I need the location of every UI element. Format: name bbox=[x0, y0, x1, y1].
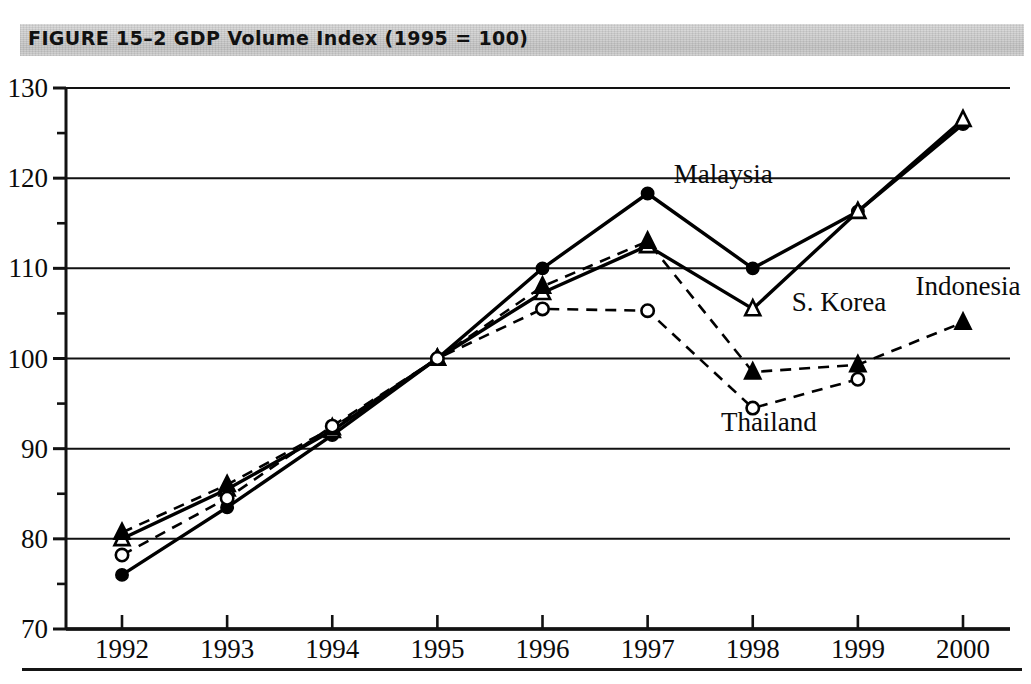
y-tick-label-90: 90 bbox=[21, 434, 48, 464]
x-tick-label-1995: 1995 bbox=[410, 634, 464, 664]
x-tick-label-1993: 1993 bbox=[200, 634, 254, 664]
marker-thailand-5 bbox=[641, 305, 653, 317]
marker-thailand-1 bbox=[221, 492, 233, 504]
marker-malaysia-6 bbox=[747, 262, 759, 274]
figure-title: FIGURE 15–2 GDP Volume Index (1995 = 100… bbox=[28, 27, 528, 49]
marker-thailand-3 bbox=[431, 352, 443, 364]
x-tick-label-2000: 2000 bbox=[936, 634, 990, 664]
chart-svg: 708090100110120130 199219931994199519961… bbox=[0, 0, 1031, 684]
marker-malaysia-0 bbox=[116, 569, 128, 581]
marker-thailand-0 bbox=[116, 549, 128, 561]
series-label-s-korea: S. Korea bbox=[792, 287, 886, 317]
marker-indonesia-1 bbox=[220, 476, 235, 491]
x-tick-label-1998: 1998 bbox=[726, 634, 780, 664]
x-axis: 199219931994199519961997199819992000 bbox=[66, 615, 1010, 664]
y-tick-label-120: 120 bbox=[8, 163, 49, 193]
marker-indonesia-4 bbox=[535, 278, 550, 293]
marker-thailand-7 bbox=[852, 373, 864, 385]
marker-indonesia-8 bbox=[956, 314, 971, 329]
marker-s-korea-8 bbox=[956, 111, 971, 126]
y-tick-label-130: 130 bbox=[8, 73, 49, 103]
x-tick-label-1997: 1997 bbox=[621, 634, 675, 664]
marker-thailand-2 bbox=[326, 420, 338, 432]
series-line-s-korea bbox=[122, 120, 963, 539]
y-tick-label-100: 100 bbox=[8, 344, 49, 374]
marker-indonesia-5 bbox=[640, 233, 655, 248]
y-tick-label-80: 80 bbox=[21, 524, 48, 554]
y-axis: 708090100110120130 bbox=[8, 73, 67, 644]
series-line-malaysia bbox=[122, 124, 963, 575]
marker-thailand-4 bbox=[536, 303, 548, 315]
series-lines bbox=[122, 120, 963, 575]
series-markers bbox=[115, 111, 971, 581]
series-label-malaysia: Malaysia bbox=[674, 159, 773, 189]
y-tick-label-110: 110 bbox=[9, 253, 49, 283]
x-tick-label-1996: 1996 bbox=[516, 634, 570, 664]
series-label-indonesia: Indonesia bbox=[916, 271, 1021, 301]
x-tick-label-1994: 1994 bbox=[305, 634, 360, 664]
marker-malaysia-4 bbox=[536, 262, 548, 274]
y-tick-label-70: 70 bbox=[21, 614, 48, 644]
x-tick-label-1999: 1999 bbox=[831, 634, 885, 664]
x-tick-label-1992: 1992 bbox=[95, 634, 149, 664]
figure-bottom-rule bbox=[22, 668, 1022, 671]
marker-malaysia-5 bbox=[641, 187, 653, 199]
gridlines bbox=[66, 88, 1010, 629]
series-annotations: MalaysiaS. KoreaIndonesiaThailand bbox=[674, 159, 1021, 437]
series-label-thailand: Thailand bbox=[721, 407, 817, 437]
gdp-volume-index-chart: 708090100110120130 199219931994199519961… bbox=[0, 0, 1031, 684]
